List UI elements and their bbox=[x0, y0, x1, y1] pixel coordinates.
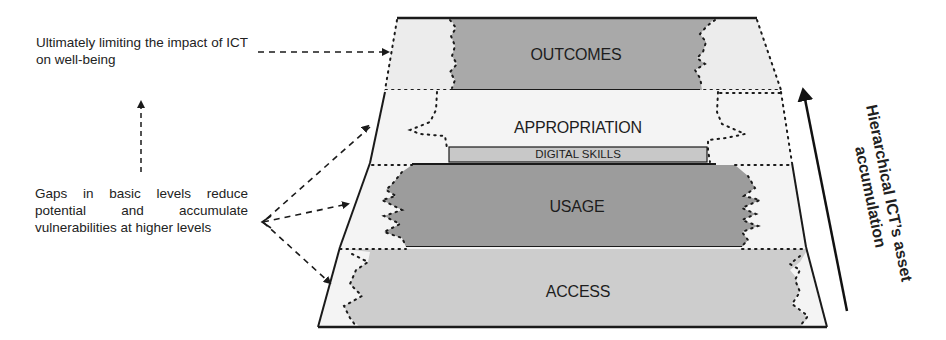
bottom-annotation: Gaps in basic levels reduce potential an… bbox=[35, 185, 248, 236]
layer-label-usage: USAGE bbox=[549, 198, 604, 216]
top-annotation: Ultimately limiting the impact of ICT on… bbox=[36, 34, 248, 68]
ict-pyramid-diagram: OUTCOMES APPROPRIATION DIGITAL SKILLS US… bbox=[0, 0, 946, 340]
layer-label-access: ACCESS bbox=[546, 283, 611, 301]
layer-label-appropriation: APPROPRIATION bbox=[514, 119, 642, 137]
layer-label-outcomes: OUTCOMES bbox=[531, 46, 622, 64]
digital-skills-label: DIGITAL SKILLS bbox=[535, 148, 621, 160]
